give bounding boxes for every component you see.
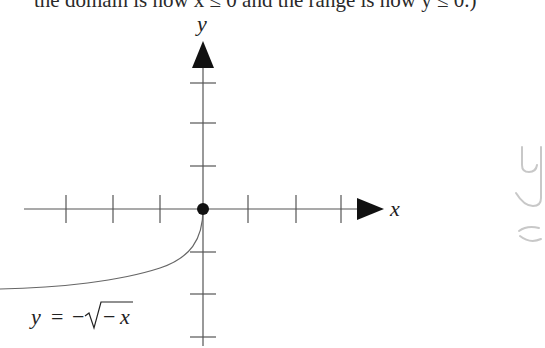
eq-minus: − xyxy=(72,304,84,329)
function-curve xyxy=(0,209,203,289)
eq-radicand-var: x xyxy=(119,304,130,329)
x-axis-label: x xyxy=(389,196,400,221)
y-axis-label: y xyxy=(195,11,207,36)
bleed-through-marks xyxy=(516,147,541,241)
origin-dot xyxy=(197,203,209,215)
eq-equals: = xyxy=(51,304,63,329)
y-axis-arrow-icon xyxy=(192,41,214,68)
equation-label: y = − − x xyxy=(29,302,133,329)
eq-lhs: y xyxy=(29,304,41,329)
x-axis-arrow-icon xyxy=(357,198,384,220)
eq-radicand-minus: − xyxy=(103,304,115,329)
function-graph: y x y = − − x xyxy=(0,0,545,348)
